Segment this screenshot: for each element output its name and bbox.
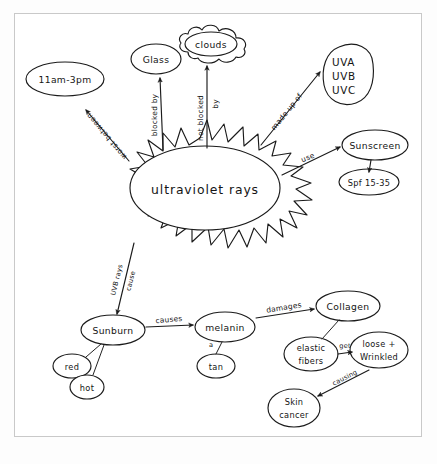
node-elastic-fibers[interactable]: elastic fibers: [284, 337, 338, 371]
loose-wrinkled-line1: loose +: [362, 339, 395, 349]
node-sunburn[interactable]: Sunburn: [81, 315, 145, 345]
node-time-of-day[interactable]: 11am-3pm: [26, 62, 104, 96]
node-skin-cancer[interactable]: Skin cancer: [268, 389, 320, 427]
hot-label: hot: [80, 383, 95, 393]
edge-label-causes: causes: [155, 314, 183, 325]
loose-wrinkled-ellipse: [350, 332, 408, 368]
loose-wrinkled-line2: Wrinkled: [360, 352, 398, 362]
edge-label-get: get: [339, 342, 351, 350]
edge-label-blocked-by: blocked by: [150, 93, 159, 136]
concept-map-canvas: ultraviolet rays 11am-3pm worst between …: [0, 0, 437, 464]
uv-types-line1: UVA: [332, 56, 355, 68]
elastic-fibers-line1: elastic: [297, 343, 326, 353]
spf-label: Spf 15-35: [348, 178, 390, 188]
skin-cancer-ellipse: [268, 389, 320, 427]
sunscreen-label: Sunscreen: [349, 140, 400, 151]
node-hot[interactable]: hot: [70, 375, 104, 399]
node-collagen[interactable]: Collagen: [316, 291, 380, 321]
time-label: 11am-3pm: [38, 74, 91, 85]
collagen-label: Collagen: [327, 301, 370, 312]
node-loose-wrinkled[interactable]: loose + Wrinkled: [350, 332, 408, 368]
uv-types-line2: UVB: [332, 70, 356, 82]
node-melanin[interactable]: melanin: [195, 312, 255, 342]
edge-blocked-by: [160, 78, 163, 150]
edge-label-not-blocked-by2: by: [211, 99, 220, 109]
edge-label-worst-between: worst between: [85, 111, 129, 161]
clouds-label: clouds: [195, 39, 227, 50]
edge-label-a: a: [209, 341, 213, 349]
node-tan[interactable]: tan: [197, 354, 235, 378]
center-node-ultraviolet-rays[interactable]: ultraviolet rays: [130, 120, 312, 248]
tan-label: tan: [209, 362, 223, 372]
edge-causes: [146, 325, 193, 327]
node-uv-types[interactable]: UVA UVB UVC: [323, 44, 373, 104]
glass-label: Glass: [143, 54, 170, 65]
skin-cancer-line1: Skin: [285, 397, 304, 407]
node-glass[interactable]: Glass: [131, 44, 181, 74]
edge-melanin-to-tan: [216, 342, 222, 354]
edge-label-use: use: [300, 151, 316, 165]
edge-sunburn-to-red: [86, 344, 101, 357]
edge-collagen-to-elastic-fibers: [322, 320, 339, 339]
uv-types-line3: UVC: [332, 84, 356, 96]
node-clouds[interactable]: clouds: [180, 25, 246, 63]
melanin-label: melanin: [205, 322, 244, 333]
red-label: red: [65, 362, 79, 372]
node-red[interactable]: red: [53, 354, 91, 378]
edge-label-made-up-of: made up of: [269, 91, 304, 131]
skin-cancer-line2: cancer: [279, 410, 309, 420]
elastic-fibers-line2: fibers: [299, 356, 324, 366]
edge-label-damages: damages: [266, 300, 303, 315]
node-sunscreen[interactable]: Sunscreen: [342, 130, 408, 160]
center-label: ultraviolet rays: [151, 182, 259, 197]
sunburn-label: Sunburn: [92, 325, 133, 336]
edge-label-not-blocked: not blocked: [196, 95, 205, 141]
node-spf[interactable]: Spf 15-35: [339, 169, 399, 195]
concept-map-drawing: ultraviolet rays 11am-3pm worst between …: [0, 0, 437, 464]
